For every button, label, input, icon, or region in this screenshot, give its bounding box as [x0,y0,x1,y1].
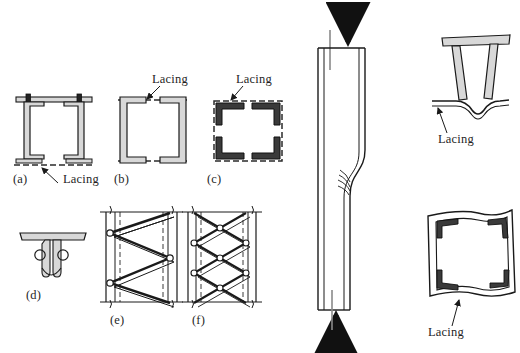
panel-c-angle-tr [252,103,280,125]
column-right-edge [350,48,365,310]
panel-d [20,233,86,277]
caption-b: (b) [114,172,129,187]
panel-b-lacing-leader [147,86,160,99]
deformed-bottom-lacing [432,100,509,114]
caption-f: (f) [192,313,205,328]
panel-f-node [243,270,249,276]
caption-e: (e) [110,313,124,328]
panel-e-node [167,255,173,261]
lacing-label-b: Lacing [152,72,188,87]
panel-e-lacing-zigzag [110,213,170,303]
deformed-angle-br [490,270,509,288]
panel-f-node [217,255,223,261]
deformed-web-left [452,46,467,100]
panel-c-lacing-leader [231,86,243,100]
panel-a [14,94,94,183]
lacing-label-right-bottom: Lacing [428,325,464,340]
panel-f-node [243,240,249,246]
panel-b [118,86,188,163]
panel-b-left-channel [120,97,146,163]
panel-c-angle-br [252,137,280,159]
panel-a-bottom-plate-left [16,159,42,163]
panel-a-bottom-plate-right [66,159,92,163]
deformed-angle-bl [437,270,458,290]
panel-e-node [107,280,113,286]
deformed-section-top [432,35,510,133]
deformed-top-flange [442,35,510,46]
panel-f-node [217,225,223,231]
panel-e-node [107,230,113,236]
panel-d-flange [20,233,86,240]
panel-c-lacing-box [214,101,282,161]
diagram-canvas: (a) Lacing (b) Lacing (c) Lacing (d) (e)… [0,0,520,353]
deformed-section-bottom [428,210,515,326]
deformed-top-lacing-leader [438,108,447,133]
panel-c [214,86,282,161]
caption-d: (d) [26,288,41,303]
deformed-angle-tl [437,219,458,238]
deformed-angle-tr [488,218,508,238]
lacing-label-c: Lacing [236,72,272,87]
panel-a-lacing-leader [42,168,58,183]
lacing-label-right-top: Lacing [438,132,474,147]
caption-c: (c) [207,172,221,187]
deformed-box-inner [436,217,509,290]
panel-e [100,206,183,308]
buckled-column [318,8,365,347]
panel-f-node [191,240,197,246]
panel-f-node [191,270,197,276]
panel-f-node [217,285,223,291]
panel-c-angle-bl [216,137,244,159]
panel-c-angle-tl [216,103,244,125]
panel-b-right-channel [160,97,186,163]
column-right-inner [344,48,359,310]
panel-a-left-channel [24,102,44,159]
panel-f [182,206,262,308]
panel-a-right-channel [64,102,84,159]
deformed-bottom-lacing-leader [452,300,459,326]
caption-a: (a) [13,172,27,187]
lacing-label-a: Lacing [63,172,99,187]
deformed-web-right [484,44,498,99]
